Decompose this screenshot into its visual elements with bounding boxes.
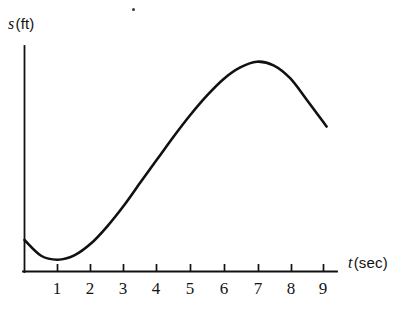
x-tick-label: 6	[214, 279, 234, 299]
x-tick-label: 5	[180, 279, 200, 299]
x-axis-unit: (sec)	[354, 254, 388, 271]
figure-root: s(ft) t(sec) 1 2 3 4 5 6 7 8 9	[0, 0, 417, 317]
x-tick-label: 8	[281, 279, 301, 299]
x-tick-label: 9	[313, 279, 333, 299]
y-axis-label: s(ft)	[8, 15, 35, 33]
x-tick-label: 3	[113, 279, 133, 299]
x-tick-label: 1	[47, 279, 67, 299]
position-curve	[25, 62, 327, 260]
scan-speck-icon	[132, 8, 135, 11]
x-tick-label: 7	[248, 279, 268, 299]
axis-lines	[23, 46, 337, 272]
x-axis-label: t(sec)	[348, 254, 388, 272]
x-tick-label: 4	[146, 279, 166, 299]
x-tick-label: 2	[80, 279, 100, 299]
y-axis-unit: (ft)	[15, 15, 34, 32]
